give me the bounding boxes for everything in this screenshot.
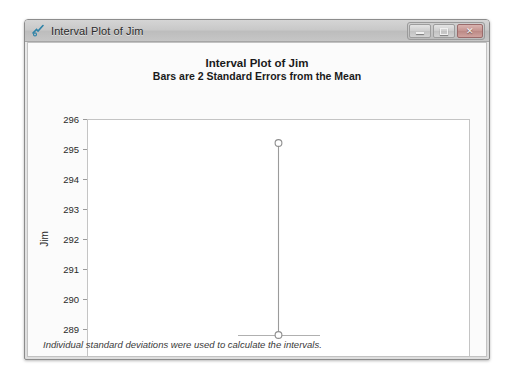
close-button[interactable]: ✕	[457, 24, 483, 38]
y-axis-tick-label: 294	[63, 174, 79, 185]
data-point-marker	[275, 332, 282, 339]
minimize-button[interactable]	[409, 24, 431, 38]
plot-client-area: Interval Plot of Jim Bars are 2 Standard…	[27, 42, 487, 357]
y-axis-title: Jim	[39, 231, 50, 247]
y-axis-tick-label: 295	[63, 144, 79, 155]
y-axis-tick-label: 288	[63, 354, 79, 357]
interval-plot-svg: 288289290291292293294295296Jim	[28, 43, 487, 357]
minitab-graph-icon	[32, 24, 45, 37]
y-axis-tick-label: 289	[63, 324, 79, 335]
data-point-marker	[275, 140, 282, 147]
plot-window: Interval Plot of Jim ✕ Interval Plot of …	[24, 19, 490, 360]
chart-footnote: Individual standard deviations were used…	[43, 339, 322, 350]
window-titlebar[interactable]: Interval Plot of Jim ✕	[25, 20, 489, 42]
window-controls: ✕	[407, 22, 485, 40]
y-axis-tick-label: 290	[63, 294, 79, 305]
y-axis-tick-label: 296	[63, 114, 79, 125]
maximize-icon	[434, 25, 454, 37]
y-axis-tick-label: 291	[63, 264, 79, 275]
maximize-button[interactable]	[433, 24, 455, 38]
minimize-icon	[410, 25, 430, 37]
window-title: Interval Plot of Jim	[51, 25, 143, 37]
plot-area: 288289290291292293294295296Jim	[28, 43, 486, 356]
y-axis-tick-label: 292	[63, 234, 79, 245]
close-icon: ✕	[458, 25, 482, 37]
y-axis-tick-label: 293	[63, 204, 79, 215]
